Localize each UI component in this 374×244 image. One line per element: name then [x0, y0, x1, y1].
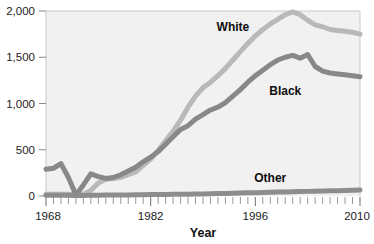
- y-axis-tick-label: 2,000: [6, 5, 35, 17]
- line-chart: 05001,0001,5002,000 1968198219962010 Whi…: [0, 0, 374, 244]
- x-axis-tick-label: 1968: [35, 210, 61, 222]
- series-label-other: Other: [254, 171, 286, 185]
- y-axis-tick-label: 0: [29, 190, 35, 202]
- chart-container: 05001,0001,5002,000 1968198219962010 Whi…: [0, 0, 374, 244]
- plot-area-background: [46, 11, 360, 196]
- y-axis-tick-label: 1,000: [6, 98, 35, 110]
- series-label-black: Black: [269, 84, 301, 98]
- x-axis-tick-label: 1996: [243, 210, 269, 222]
- x-axis-title: Year: [190, 226, 217, 240]
- x-axis-tick-label: 2010: [344, 210, 370, 222]
- x-axis-tick-label: 1982: [138, 210, 164, 222]
- series-label-white: White: [217, 20, 250, 34]
- y-axis-tick-label: 1,500: [6, 51, 35, 63]
- y-axis-tick-label: 500: [16, 144, 35, 156]
